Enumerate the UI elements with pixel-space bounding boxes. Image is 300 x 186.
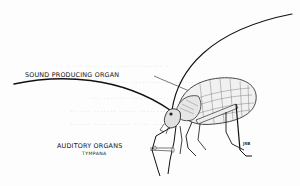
hind-tarsus [240, 150, 252, 156]
middle-leg [186, 122, 196, 156]
artist-signature: JSB [243, 141, 250, 146]
front-leg-3 [180, 126, 182, 154]
eye [169, 112, 172, 115]
sound-producing-organ-label: SOUND PRODUCING ORGAN [25, 71, 119, 79]
auditory-leader-2 [150, 150, 172, 151]
tympanum [172, 148, 174, 153]
tympanum [154, 146, 156, 150]
left-antenna [14, 79, 170, 110]
figure-canvas: · · ··· ···· ··· ···· ········· · ······… [0, 0, 300, 186]
front-leg-1 [152, 128, 170, 176]
katydid-illustration [0, 0, 300, 186]
tympana-label: TYMPANA [82, 151, 107, 156]
middle-leg-2 [198, 124, 206, 150]
head [164, 109, 180, 128]
auditory-organs-label: AUDITORY ORGANS [57, 142, 122, 150]
